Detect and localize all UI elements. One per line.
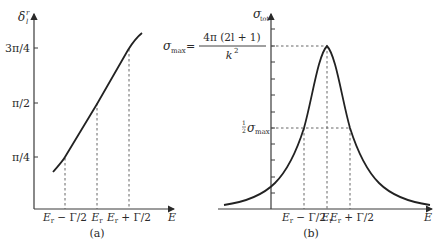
x-label-er: Er <box>90 211 103 225</box>
sigma-max-sub: max <box>171 47 186 55</box>
x-label-er-plus-b: Er + Γ/2 <box>329 211 374 225</box>
panel-b-x-label: E <box>423 211 432 224</box>
caption-b: (b) <box>303 227 319 240</box>
caption-a: (a) <box>89 227 104 240</box>
panel-a-y-label-sup: r <box>26 9 30 17</box>
y-tick-label-pi-4: π/4 <box>12 151 30 164</box>
y-tick-label-pi-2: π/2 <box>12 97 30 110</box>
panel-a-x-label: E <box>167 211 176 224</box>
half-num: 1 <box>242 119 246 126</box>
half-sigma-sub: max <box>255 128 270 136</box>
panel-a-y-label-sub: l <box>26 18 28 26</box>
sigma-max-numerator: 4π (2l + 1) <box>203 31 260 43</box>
panel-b-cross-section: σ tot σ max = 4π (2l + 1) k 2 1 2 σ max … <box>163 7 432 240</box>
sigma-max-denominator: k <box>226 49 233 62</box>
panel-a-y-label: δ <box>18 10 25 24</box>
resonance-diagram: 3π/4 π/2 π/4 δ l r Er − Γ/2 Er Er + Γ/2 … <box>0 0 441 250</box>
x-label-er-minus: Er − Γ/2 <box>42 211 87 225</box>
y-tick-label-3pi-4: 3π/4 <box>5 42 30 55</box>
panel-b-y-label-sub: tot <box>260 15 270 23</box>
sigma-max-equals: = <box>186 40 195 53</box>
sigma-max-denominator-sup: 2 <box>234 47 238 55</box>
x-label-er-minus-b: Er − Γ/2 <box>281 211 326 225</box>
panel-a-phase-shift: 3π/4 π/2 π/4 δ l r Er − Γ/2 Er Er + Γ/2 … <box>5 9 176 240</box>
half-den: 2 <box>242 127 246 134</box>
x-label-er-plus: Er + Γ/2 <box>106 211 151 225</box>
